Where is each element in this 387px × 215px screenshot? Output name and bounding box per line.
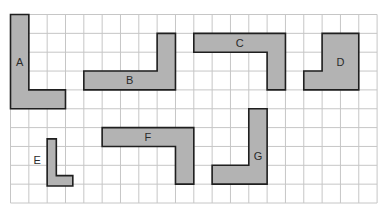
shape-label: C [236, 37, 244, 49]
shape-c: C [194, 33, 286, 90]
shape-d: D [304, 33, 359, 90]
shape-label: B [126, 74, 133, 86]
shape-a: A [11, 15, 66, 109]
shape-label: E [33, 154, 40, 166]
l-shape-polygon [304, 33, 359, 90]
shape-label: F [145, 131, 152, 143]
shape-label: D [336, 56, 344, 68]
shape-f: F [102, 128, 194, 185]
shape-b: B [84, 33, 176, 90]
shape-label: G [254, 150, 263, 162]
grid-diagram: ABCDEFG [0, 0, 387, 215]
shape-label: A [16, 56, 24, 68]
shapes: ABCDEFG [11, 15, 359, 187]
